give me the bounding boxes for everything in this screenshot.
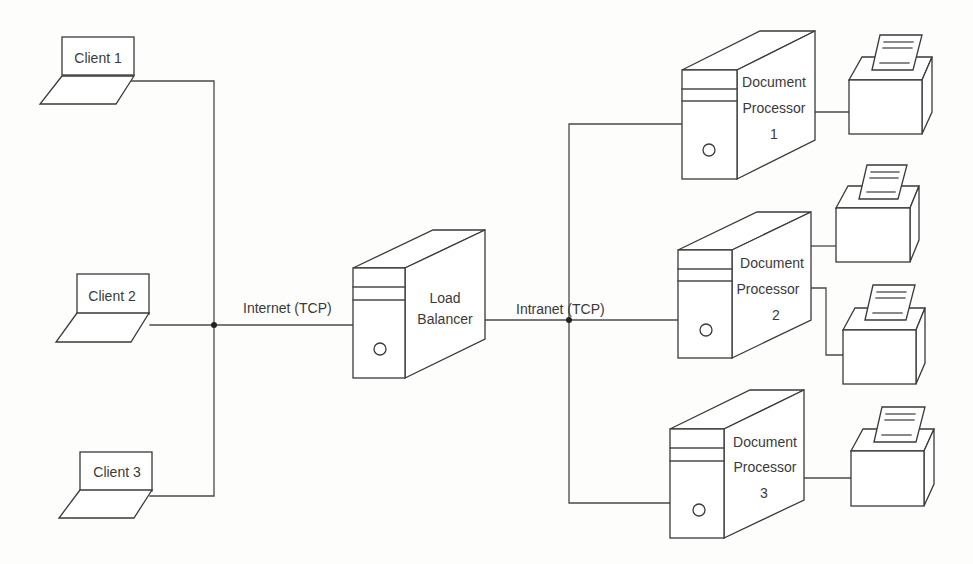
power-button-icon bbox=[703, 144, 715, 156]
document-processor-1[interactable]: Document Processor 1 bbox=[682, 31, 815, 179]
printer-2b[interactable] bbox=[843, 285, 925, 384]
processor-1-label-line2: Processor bbox=[742, 100, 805, 116]
processor-3-label-line2: Processor bbox=[733, 459, 796, 475]
network-diagram: Client 1 Client 2 Client 3 Load Balancer… bbox=[0, 0, 973, 564]
document-processor-3[interactable]: Document Processor 3 bbox=[670, 390, 804, 538]
client-1-label: Client 1 bbox=[74, 50, 122, 66]
laptop-keyboard bbox=[59, 490, 152, 518]
tower-front bbox=[682, 70, 737, 179]
printer-paper-icon bbox=[865, 285, 915, 320]
power-button-icon bbox=[700, 324, 712, 336]
printer-paper-icon bbox=[874, 407, 925, 442]
intranet-label: Intranet (TCP) bbox=[516, 301, 605, 317]
load-balancer-label-line1: Load bbox=[429, 290, 460, 306]
printer-front bbox=[851, 451, 924, 506]
processor-3-label-line1: Document bbox=[733, 434, 797, 450]
laptop-keyboard bbox=[40, 76, 134, 104]
tower-front bbox=[678, 250, 732, 358]
printer-3[interactable] bbox=[851, 407, 934, 506]
client-3-label: Client 3 bbox=[93, 464, 141, 480]
laptop-keyboard bbox=[56, 313, 149, 342]
processor-1-label-line1: Document bbox=[742, 74, 806, 90]
processor-2-label-line2: Processor bbox=[736, 281, 799, 297]
load-balancer-label-line2: Balancer bbox=[417, 311, 473, 327]
tower-front bbox=[670, 429, 724, 538]
client-2[interactable]: Client 2 bbox=[56, 274, 149, 342]
client-1[interactable]: Client 1 bbox=[40, 37, 134, 104]
printer-paper-icon bbox=[859, 165, 907, 199]
processor-3-label-line3: 3 bbox=[760, 485, 768, 501]
printer-front bbox=[836, 208, 910, 262]
processor-2-label-line3: 2 bbox=[772, 307, 780, 323]
printer-paper-icon bbox=[872, 35, 922, 70]
tower-front bbox=[353, 268, 405, 378]
power-button-icon bbox=[374, 343, 386, 355]
intranet-junction bbox=[566, 317, 572, 323]
internet-junction bbox=[211, 322, 217, 328]
power-button-icon bbox=[693, 504, 705, 516]
client-2-label: Client 2 bbox=[88, 288, 136, 304]
processor-2-label-line1: Document bbox=[740, 255, 804, 271]
processor-1-label-line3: 1 bbox=[770, 126, 778, 142]
printer-2a[interactable] bbox=[836, 165, 919, 262]
document-processor-2[interactable]: Document Processor 2 bbox=[678, 212, 811, 358]
printer-1[interactable] bbox=[849, 35, 932, 134]
printer-front bbox=[849, 80, 922, 134]
load-balancer[interactable]: Load Balancer bbox=[353, 230, 485, 378]
internet-label: Internet (TCP) bbox=[243, 300, 332, 316]
proc2-printer-b-line bbox=[811, 288, 843, 355]
printer-front bbox=[843, 330, 916, 384]
client-3[interactable]: Client 3 bbox=[59, 452, 152, 518]
